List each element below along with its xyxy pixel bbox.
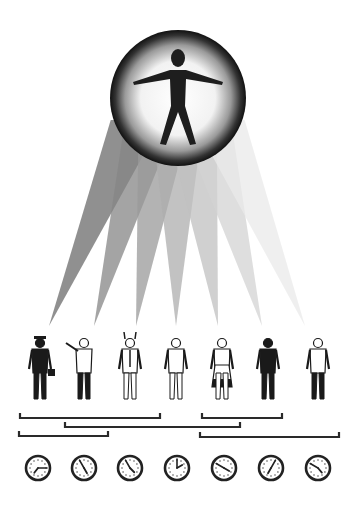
clock-icon-3 — [118, 456, 142, 480]
bracket-2 — [202, 413, 282, 418]
bracket-5 — [200, 432, 339, 437]
time-span-brackets — [19, 413, 339, 437]
figure-uniformed-officer — [257, 339, 279, 400]
figure-horned-devil-in-tie — [119, 332, 141, 399]
figure-businessman-with-briefcase — [29, 336, 55, 399]
bracket-4 — [19, 431, 108, 436]
clock-icon-7 — [306, 456, 330, 480]
bracket-3 — [65, 422, 240, 427]
clock-icon-2 — [72, 456, 96, 480]
bracket-1 — [20, 413, 160, 418]
central-sphere — [110, 30, 246, 166]
clock-icon-6 — [259, 456, 283, 480]
clock-row — [26, 456, 330, 480]
persona-figures — [29, 332, 329, 399]
clock-icon-1 — [26, 456, 50, 480]
figure-worker-in-overalls — [165, 339, 187, 400]
figure-pointing-person — [66, 339, 92, 400]
figure-woman-in-apron — [211, 339, 233, 400]
clock-icon-5 — [212, 456, 236, 480]
illustration-canvas — [0, 0, 358, 509]
clock-icon-4 — [165, 456, 189, 480]
figure-dancing-man-in-jacket — [307, 339, 329, 400]
